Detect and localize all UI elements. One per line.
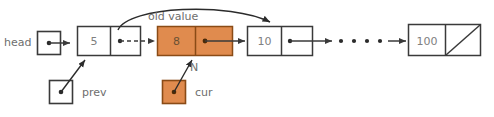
old-value-label: old value	[148, 11, 198, 22]
n-label: N	[190, 62, 198, 73]
diagram-vector-layer	[0, 0, 494, 117]
prev-label: prev	[82, 87, 107, 98]
node-8-value: 8	[158, 36, 195, 47]
ellipsis-dots	[339, 39, 406, 43]
node-100-value: 100	[409, 36, 445, 47]
prev-pointer-box	[50, 60, 86, 104]
cur-label: cur	[195, 87, 213, 98]
linked-list-diagram: head 5 8 10 100 old value N prev cur	[0, 0, 494, 117]
node-10-value: 10	[248, 36, 281, 47]
cur-pointer-box	[163, 60, 193, 104]
node-5-value: 5	[78, 36, 110, 47]
head-pointer-box	[38, 32, 71, 55]
head-label: head	[4, 37, 31, 48]
